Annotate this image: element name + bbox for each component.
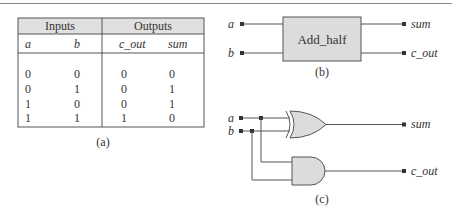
cell: 0 bbox=[169, 67, 175, 81]
block-diagram: a b Add_half sum c_out (b) bbox=[228, 17, 438, 79]
cell: 0 bbox=[169, 111, 175, 125]
cell: 0 bbox=[25, 67, 31, 81]
caption-b: (b) bbox=[315, 65, 329, 79]
module-label: Add_half bbox=[297, 32, 347, 47]
cell: 1 bbox=[74, 111, 80, 125]
cell: 1 bbox=[121, 111, 127, 125]
cell: 1 bbox=[169, 97, 175, 111]
label-sum: sum bbox=[411, 17, 431, 31]
label-b: b bbox=[228, 46, 234, 60]
col-b: b bbox=[74, 37, 80, 51]
cell: 0 bbox=[121, 97, 127, 111]
col-sum: sum bbox=[168, 37, 188, 51]
label-b: b bbox=[228, 124, 234, 138]
xor-gate bbox=[290, 111, 326, 138]
cell: 1 bbox=[74, 82, 80, 96]
col-c-out: c_out bbox=[119, 37, 146, 51]
cell: 1 bbox=[169, 82, 175, 96]
label-sum: sum bbox=[411, 117, 431, 131]
cell: 1 bbox=[25, 111, 31, 125]
cell: 1 bbox=[25, 97, 31, 111]
cell: 0 bbox=[121, 82, 127, 96]
label-a: a bbox=[228, 17, 234, 31]
label-c-out: c_out bbox=[411, 164, 438, 178]
col-a: a bbox=[25, 37, 31, 51]
label-a: a bbox=[228, 111, 234, 125]
cell: 0 bbox=[25, 82, 31, 96]
caption-c: (c) bbox=[315, 192, 328, 206]
and-gate bbox=[292, 157, 325, 185]
gate-diagram: a b sum c_out (c) bbox=[228, 111, 438, 206]
truth-table: Inputs Outputs a b c_out sum 0 0 0 0 0 1… bbox=[18, 18, 204, 149]
header-outputs: Outputs bbox=[134, 19, 172, 33]
cell: 0 bbox=[74, 97, 80, 111]
header-inputs: Inputs bbox=[45, 19, 75, 33]
cell: 0 bbox=[121, 67, 127, 81]
label-c-out: c_out bbox=[411, 46, 438, 60]
figure: Inputs Outputs a b c_out sum 0 0 0 0 0 1… bbox=[0, 0, 452, 220]
caption-a: (a) bbox=[96, 135, 109, 149]
cell: 0 bbox=[74, 67, 80, 81]
xor-gate-input-arc bbox=[286, 111, 290, 138]
